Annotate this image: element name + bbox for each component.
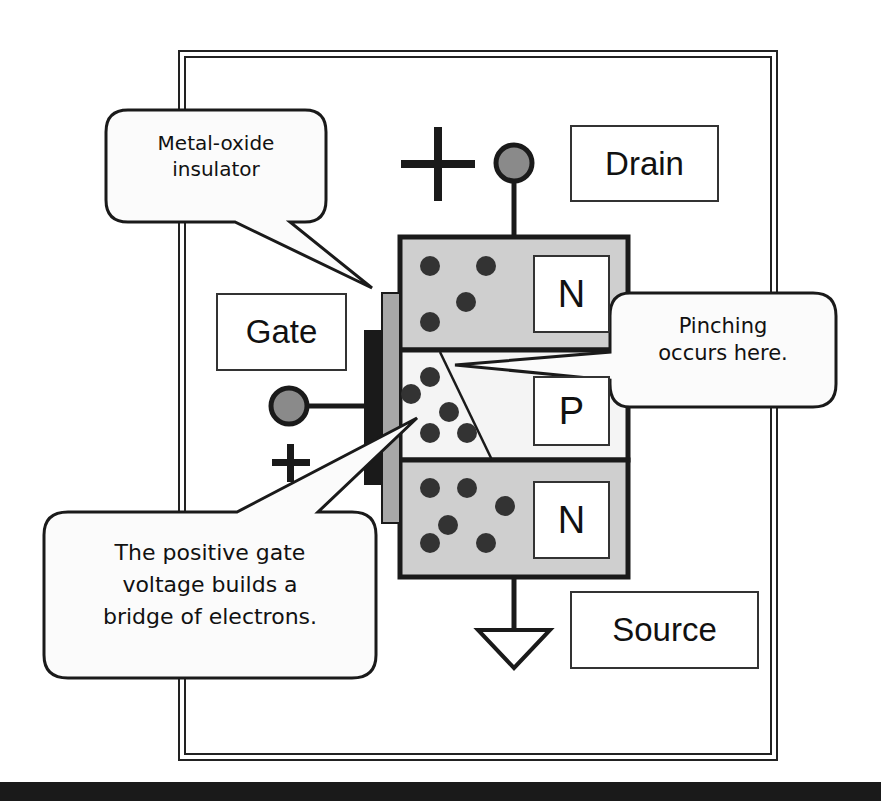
callout-pinching-text: Pinching occurs here. (612, 313, 834, 368)
callout-insulator-text: Metal-oxide insulator (108, 130, 324, 182)
source-label: Source (570, 591, 759, 669)
source-ground-icon (478, 577, 550, 668)
callout-bridge-line1: The positive gate (46, 537, 374, 569)
region-label-n-bottom: N (533, 481, 610, 559)
callout-bridge-line3: bridge of electrons. (46, 601, 374, 633)
drain-label: Drain (570, 125, 719, 202)
region-label-n-top: N (533, 255, 610, 333)
callout-insulator-line2: insulator (108, 156, 324, 182)
callout-pinching-line1: Pinching (612, 313, 834, 340)
callout-insulator-line1: Metal-oxide (108, 130, 324, 156)
gate-label: Gate (216, 293, 347, 371)
gate-terminal-icon (271, 388, 364, 424)
mosfet-diagram (0, 0, 881, 801)
oxide-insulator-layer (382, 293, 400, 523)
callout-pinching-line2: occurs here. (612, 340, 834, 367)
callout-bridge-text: The positive gate voltage builds a bridg… (46, 537, 374, 633)
bottom-divider-bar (0, 782, 881, 801)
callout-bridge-line2: voltage builds a (46, 569, 374, 601)
drain-terminal-icon (496, 145, 532, 237)
drain-plus-icon (401, 127, 475, 201)
region-label-p: P (533, 376, 610, 446)
